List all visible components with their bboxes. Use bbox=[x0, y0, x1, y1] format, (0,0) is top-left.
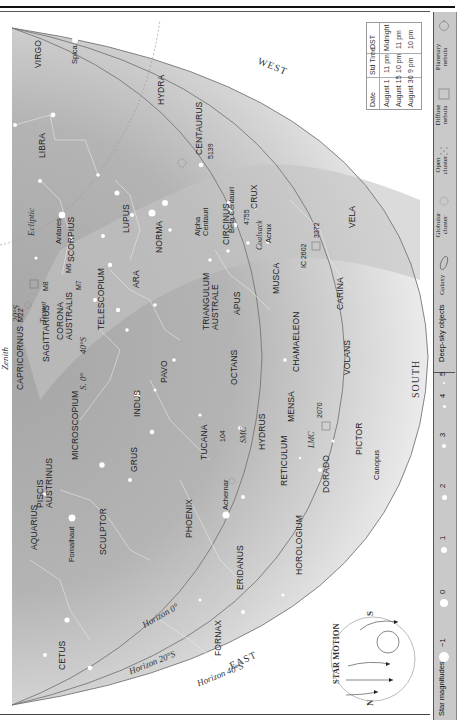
const-musca: MUSCA bbox=[272, 263, 281, 294]
mag-dot-2 bbox=[442, 495, 447, 500]
legend-globular-label: Globular cluster bbox=[435, 210, 450, 240]
const-hydrus: HYDRUS bbox=[258, 414, 267, 451]
mag-dot-4 bbox=[443, 405, 446, 408]
star-beta-centauri: Beta Centauri bbox=[228, 187, 236, 233]
const-microscopium: MICROSCOPIUM bbox=[71, 391, 80, 460]
star-antares: Antares bbox=[55, 218, 63, 244]
tt-row3-dst: 10 pm bbox=[407, 30, 414, 49]
legend-planetary-nebula-label: Planetary nebula bbox=[435, 42, 450, 72]
dso-4755: 4755 bbox=[243, 209, 250, 225]
dso-104: 104 bbox=[219, 430, 226, 442]
const-fornax: FORNAX bbox=[214, 620, 223, 656]
lat-s0-label: S. 0° bbox=[79, 373, 88, 390]
const-libra: LIBRA bbox=[38, 133, 47, 158]
planetary-nebula-icon bbox=[438, 20, 450, 32]
const-hydra: HYDRA bbox=[157, 75, 166, 105]
tt-row1-std: 11 pm bbox=[383, 54, 390, 73]
star-canopus: Canopus bbox=[373, 450, 381, 480]
const-volans: VOLANS bbox=[343, 340, 352, 375]
const-dorado: DORADO bbox=[322, 455, 331, 493]
const-grus: GRUS bbox=[130, 447, 139, 472]
mag-label-minus1: −1 bbox=[439, 638, 447, 647]
mag-label-1: 1 bbox=[439, 536, 447, 540]
dso-3372: 3372 bbox=[313, 222, 320, 238]
dso-smc: SMC bbox=[240, 427, 248, 443]
tt-row2-dst: 11 pm bbox=[395, 30, 402, 49]
tt-header-date: Date bbox=[369, 92, 376, 107]
star-spica: Spica bbox=[71, 45, 79, 64]
tt-row2-date: August 15 bbox=[395, 75, 402, 107]
const-tucana: TUCANA bbox=[200, 424, 209, 460]
dso-5139: 5139 bbox=[207, 143, 214, 159]
tt-header-dst: DST bbox=[369, 35, 376, 49]
mag-label-3: 3 bbox=[439, 433, 447, 437]
mag-dot-3 bbox=[442, 444, 446, 448]
star-fomalhaut: Fomalhaut bbox=[68, 527, 76, 562]
star-acrux: Acrux bbox=[265, 224, 273, 243]
dso-m7: M7 bbox=[75, 280, 82, 290]
mag-dot-minus1 bbox=[439, 652, 449, 662]
const-horologium: HOROLOGIUM bbox=[295, 515, 304, 575]
asterism-teapot: Teapot bbox=[40, 302, 48, 324]
tt-row3-date: August 30 bbox=[407, 75, 414, 107]
tt-header-std: Std Time bbox=[369, 47, 376, 75]
lat-40-label: 40°S bbox=[79, 337, 88, 354]
mag-dot-1 bbox=[441, 547, 447, 553]
dso-m6: M6 bbox=[65, 263, 72, 273]
const-triangulum-australe: TRIANGULUM AUSTRALE bbox=[202, 250, 219, 330]
const-vela: VELA bbox=[348, 206, 357, 228]
dso-2070: 2070 bbox=[316, 402, 323, 418]
star-motion-diagram bbox=[318, 600, 428, 710]
mag-label-2: 2 bbox=[439, 484, 447, 488]
tt-row1-date: August 1 bbox=[383, 79, 390, 107]
mag-label-0: 0 bbox=[439, 590, 447, 594]
dso-ic2602: IC 2602 bbox=[300, 243, 307, 268]
tt-row1-dst: Midnight bbox=[383, 25, 390, 51]
const-chamaeleon: CHAMAELEON bbox=[292, 311, 301, 372]
const-ara: ARA bbox=[132, 270, 141, 288]
tt-row3-std: 9 pm bbox=[407, 57, 414, 73]
const-cetus: CETUS bbox=[58, 641, 67, 670]
const-pictor: PICTOR bbox=[355, 422, 364, 455]
const-carina: CARINA bbox=[336, 277, 345, 310]
const-scorpius: SCORPIUS bbox=[67, 217, 76, 262]
time-table: Date Std Time DST August 1 11 pm Midnigh… bbox=[366, 22, 422, 110]
const-indus: INDUS bbox=[133, 390, 142, 417]
frame-bottom-rule bbox=[0, 714, 430, 715]
star-achernar: Achernar bbox=[222, 480, 230, 510]
dso-m8: M8 bbox=[42, 281, 49, 291]
const-apus: APUS bbox=[233, 291, 242, 315]
star-alpha-centauri: Alpha Centauri bbox=[194, 206, 209, 236]
const-virgo: VIRGO bbox=[34, 40, 43, 68]
const-phoenix: PHOENIX bbox=[185, 499, 194, 538]
const-norma: NORMA bbox=[155, 221, 164, 253]
ecliptic-label: Ecliptic bbox=[27, 208, 36, 236]
open-cluster-icon bbox=[438, 145, 450, 157]
dso-lmc: LMC bbox=[308, 432, 316, 448]
const-centaurus: CENTAURUS bbox=[195, 102, 204, 155]
legend-deep-sky-label: Deep-sky objects bbox=[438, 304, 446, 362]
const-telescopium: TELESCOPIUM bbox=[97, 268, 106, 330]
star-motion-inset: STAR MOTION N S bbox=[318, 600, 428, 710]
const-sculptor: SCULPTOR bbox=[99, 508, 108, 555]
legend-diffuse-nebula-label: Diffuse nebula bbox=[435, 100, 450, 130]
const-aquarius: AQUARIUS bbox=[30, 505, 39, 550]
legend-magnitudes-label: Star magnitudes bbox=[438, 661, 446, 716]
const-piscis-austrinus: PISCIS AUSTRINUS bbox=[36, 458, 53, 508]
const-crux: CRUX bbox=[250, 185, 259, 210]
const-pavo: PAVO bbox=[160, 360, 169, 383]
const-capricornus: CAPRICORNUS bbox=[16, 326, 25, 390]
const-lupus: LUPUS bbox=[122, 204, 131, 233]
mag-label-4: 4 bbox=[439, 394, 447, 398]
globular-cluster-icon bbox=[438, 195, 450, 207]
asterism-coalsack: Coalsack bbox=[256, 220, 264, 250]
const-corona-australis: CORONA AUSTRALIS bbox=[56, 280, 73, 340]
tt-row2-std: 10 pm bbox=[395, 54, 402, 73]
legend-galaxy-label: Galaxy bbox=[439, 275, 446, 295]
zenith-label: Zenith bbox=[1, 347, 10, 370]
const-mensa: MENSA bbox=[287, 391, 296, 422]
const-reticulum: RETICULUM bbox=[280, 436, 289, 487]
const-eridanus: ERIDANUS bbox=[236, 545, 245, 590]
direction-south: SOUTH bbox=[411, 360, 421, 398]
diffuse-nebula-icon bbox=[438, 88, 450, 100]
